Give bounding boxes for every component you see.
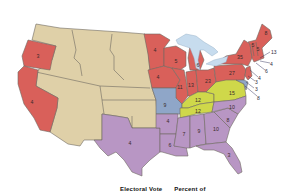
label-ohio: 23 — [205, 78, 211, 84]
label-connecticut: 6 — [265, 68, 268, 74]
label-mississippi: 7 — [183, 131, 186, 137]
label-maryland: 8 — [257, 95, 260, 101]
label-florida: 3 — [228, 152, 231, 158]
label-kentucky: 12 — [195, 97, 201, 103]
label-vermont: 5 — [252, 42, 255, 48]
label-new-hampshire: 5 — [257, 46, 260, 52]
label-pennsylvania: 27 — [229, 70, 235, 76]
label-rhode-island: 4 — [270, 61, 273, 67]
label-illinois: 11 — [177, 84, 182, 90]
label-louisiana: 6 — [169, 142, 172, 148]
label-new-york: 35 — [237, 54, 243, 60]
label-tennessee: 12 — [195, 108, 201, 114]
caption-electoral-vote: Electoral Vote — [120, 186, 162, 192]
label-georgia: 10 — [213, 126, 219, 132]
label-iowa: 4 — [157, 74, 160, 80]
caption-percent-of: Percent of — [174, 186, 205, 192]
label-massachusetts: 13 — [271, 49, 277, 55]
label-arkansas: 4 — [167, 118, 170, 124]
label-california: 4 — [31, 99, 34, 105]
map-caption: Electoral Vote Percent of — [120, 186, 216, 192]
label-michigan: 6 — [197, 62, 200, 68]
label-nj-split: 3 — [255, 79, 258, 85]
label-texas: 4 — [129, 140, 132, 146]
label-delaware: 3 — [255, 86, 258, 92]
label-new-jersey: 4 — [258, 75, 261, 81]
state-florida — [196, 142, 242, 174]
label-wisconsin: 5 — [175, 58, 178, 64]
label-indiana: 13 — [188, 82, 194, 88]
label-oregon: 3 — [37, 53, 40, 59]
label-maine: 8 — [265, 30, 268, 36]
label-north-carolina: 10 — [229, 104, 235, 110]
election-map: 3 4 4 4 5 6 11 13 23 27 35 8 5 5 9 12 12… — [0, 0, 290, 193]
label-south-carolina: 8 — [227, 117, 230, 123]
label-virginia: 15 — [229, 90, 235, 96]
label-missouri: 9 — [164, 102, 167, 108]
label-alabama: 9 — [198, 128, 201, 134]
label-minnesota: 4 — [154, 47, 157, 53]
